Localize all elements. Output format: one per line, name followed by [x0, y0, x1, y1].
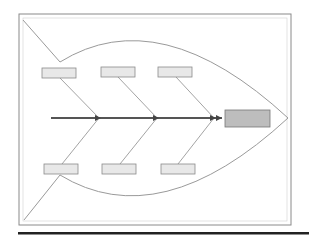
effect-box[interactable] [225, 110, 270, 127]
cause-box-top-2[interactable] [101, 67, 135, 77]
cause-box-bottom-1[interactable] [44, 164, 78, 174]
cause-box-bottom-2[interactable] [102, 164, 136, 174]
bottom-rule [18, 232, 309, 235]
cause-box-bottom-3[interactable] [161, 164, 195, 174]
fishbone-diagram [0, 0, 309, 236]
cause-box-top-3[interactable] [158, 67, 192, 77]
cause-box-top-1[interactable] [42, 68, 76, 78]
